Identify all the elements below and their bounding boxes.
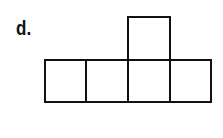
square-row-2 [85,59,129,103]
square-row-1 [44,59,87,103]
square-row-4 [169,59,212,103]
square-row-3 [127,59,171,103]
figure-label: d. [16,17,31,39]
square-top-3 [127,16,171,61]
